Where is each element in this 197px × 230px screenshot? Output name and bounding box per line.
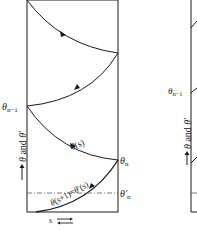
right-label-theta-n-minus-1: θn−1 xyxy=(168,86,183,97)
curve-1 xyxy=(27,0,118,53)
label-theta-n-minus-1: θn−1 xyxy=(2,101,18,114)
left-panel-frame xyxy=(27,0,118,212)
right-curve-1 xyxy=(191,21,197,28)
diagram: θn−1 θn θ′n θ(s) θ(s+1)=θ′(s) θ and θ′ s… xyxy=(0,0,197,230)
s-direction-arrows xyxy=(57,218,73,225)
arrowhead-2 xyxy=(74,84,80,90)
right-curve-3 xyxy=(191,157,197,163)
curve-2 xyxy=(27,53,118,106)
svg-text:θ and θ′: θ and θ′ xyxy=(17,131,28,162)
right-curve-2 xyxy=(191,88,197,93)
label-theta-n: θn xyxy=(120,155,129,168)
label-theta-n-prime: θ′n xyxy=(120,188,131,201)
x-axis-label-s: s xyxy=(49,216,52,225)
arrowhead-1 xyxy=(60,31,66,37)
svg-text:θ and θ′: θ and θ′ xyxy=(182,118,193,149)
label-theta-s: θ(s) xyxy=(69,137,86,151)
left-y-axis-label: θ and θ′ xyxy=(17,131,28,180)
